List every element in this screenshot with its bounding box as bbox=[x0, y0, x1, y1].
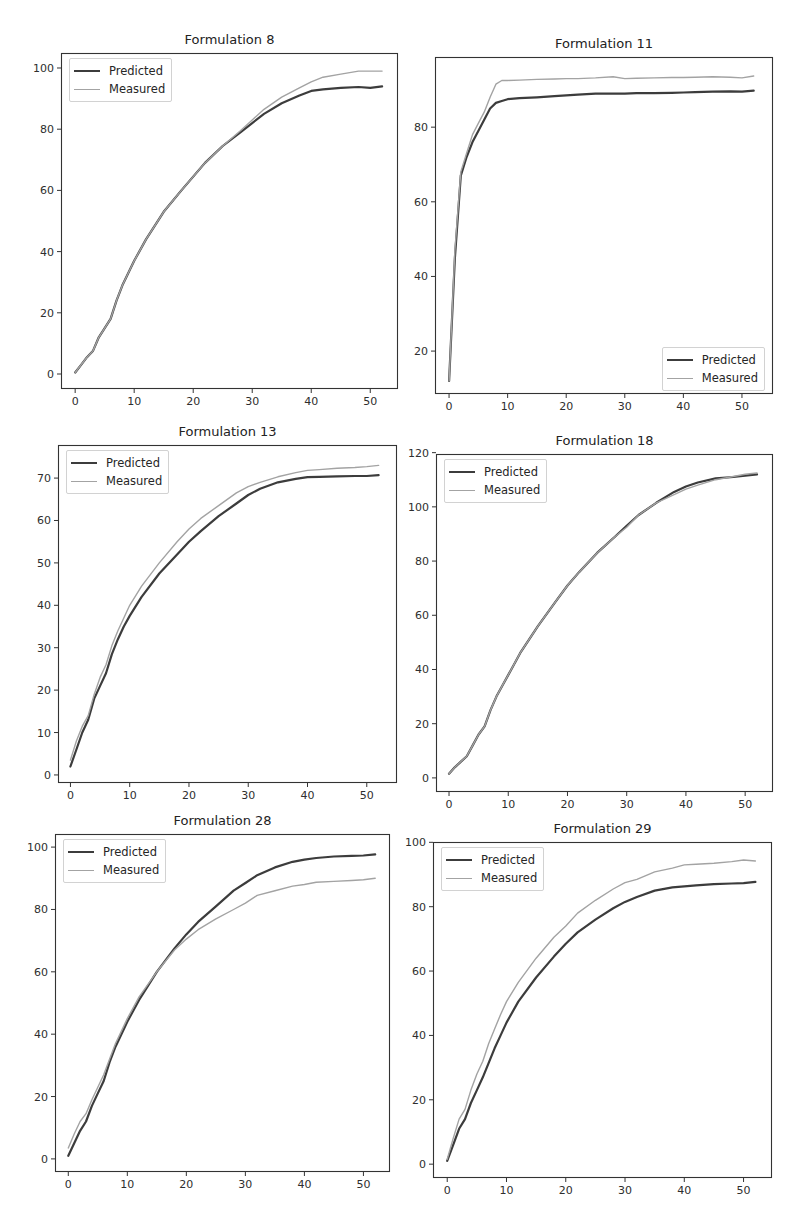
y-tick-label: 80 bbox=[415, 555, 429, 568]
y-tick-label: 80 bbox=[40, 123, 54, 136]
chart-panel-formulation-29: Formulation 29 01020304050020406080100 P… bbox=[433, 842, 772, 1178]
measured-line-swatch-icon bbox=[446, 878, 472, 879]
y-tick-label: 40 bbox=[37, 599, 51, 612]
x-tick-label: 0 bbox=[446, 798, 453, 811]
predicted-line-swatch-icon bbox=[68, 851, 94, 853]
x-tick-label: 0 bbox=[72, 395, 79, 408]
y-tick-label: 0 bbox=[41, 1153, 48, 1166]
y-tick-label: 100 bbox=[27, 841, 48, 854]
legend-item-measured: Measured bbox=[71, 472, 162, 490]
y-tick-label: 120 bbox=[408, 447, 429, 460]
y-tick-label: 0 bbox=[44, 769, 51, 782]
y-tick-label: 10 bbox=[37, 727, 51, 740]
x-tick-label: 20 bbox=[559, 1184, 573, 1197]
x-tick-label: 30 bbox=[245, 395, 259, 408]
chart-panel-formulation-8: Formulation 8 01020304050020406080100 Pr… bbox=[61, 53, 398, 389]
axes-frame bbox=[59, 446, 397, 783]
series-line-measured bbox=[449, 76, 754, 381]
predicted-line-swatch-icon bbox=[74, 70, 100, 72]
series-line-measured bbox=[449, 473, 757, 774]
x-tick-label: 40 bbox=[677, 1184, 691, 1197]
legend: Predicted Measured bbox=[441, 847, 544, 891]
x-tick-label: 40 bbox=[676, 400, 690, 413]
predicted-line-swatch-icon bbox=[446, 859, 472, 861]
x-tick-label: 20 bbox=[560, 798, 574, 811]
x-tick-label: 10 bbox=[127, 395, 141, 408]
x-tick-label: 0 bbox=[67, 789, 74, 802]
legend-item-predicted: Predicted bbox=[68, 843, 159, 861]
legend-label: Predicted bbox=[484, 463, 538, 481]
legend-label: Predicted bbox=[106, 454, 160, 472]
chart-title: Formulation 18 bbox=[436, 433, 773, 448]
x-tick-label: 50 bbox=[363, 395, 377, 408]
axes-frame bbox=[62, 54, 398, 389]
x-tick-label: 20 bbox=[559, 400, 573, 413]
x-tick-label: 50 bbox=[735, 400, 749, 413]
y-tick-label: 40 bbox=[414, 270, 428, 283]
series-line-predicted bbox=[75, 86, 382, 372]
y-tick-label: 60 bbox=[37, 514, 51, 527]
legend-item-measured: Measured bbox=[667, 369, 758, 387]
predicted-line-swatch-icon bbox=[71, 462, 97, 464]
legend: Predicted Measured bbox=[63, 839, 166, 883]
y-tick-label: 100 bbox=[405, 836, 426, 849]
y-tick-label: 0 bbox=[422, 772, 429, 785]
legend: Predicted Measured bbox=[662, 347, 765, 391]
y-tick-label: 60 bbox=[412, 965, 426, 978]
y-tick-label: 20 bbox=[34, 1091, 48, 1104]
measured-line-swatch-icon bbox=[74, 89, 100, 90]
y-tick-label: 20 bbox=[415, 718, 429, 731]
chart-title: Formulation 29 bbox=[433, 821, 772, 836]
legend: Predicted Measured bbox=[444, 459, 547, 503]
y-tick-label: 0 bbox=[47, 368, 54, 381]
predicted-line-swatch-icon bbox=[449, 471, 475, 473]
measured-line-swatch-icon bbox=[667, 378, 693, 379]
legend-item-measured: Measured bbox=[446, 869, 537, 887]
plot-area: 01020304050020406080100 bbox=[61, 53, 398, 389]
y-tick-label: 20 bbox=[40, 307, 54, 320]
x-tick-label: 40 bbox=[301, 789, 315, 802]
y-tick-label: 60 bbox=[34, 966, 48, 979]
legend-item-measured: Measured bbox=[449, 481, 540, 499]
plot-area: 01020304050020406080100 bbox=[55, 834, 390, 1172]
y-tick-label: 50 bbox=[37, 557, 51, 570]
x-tick-label: 30 bbox=[618, 400, 632, 413]
y-tick-label: 20 bbox=[412, 1094, 426, 1107]
legend-label: Measured bbox=[109, 80, 165, 98]
legend-label: Measured bbox=[481, 869, 537, 887]
y-tick-label: 30 bbox=[37, 642, 51, 655]
y-tick-label: 20 bbox=[37, 684, 51, 697]
figure-grid: Formulation 8 01020304050020406080100 Pr… bbox=[0, 0, 798, 1223]
series-line-predicted bbox=[70, 475, 378, 766]
x-tick-label: 20 bbox=[179, 1178, 193, 1191]
legend-label: Predicted bbox=[702, 351, 756, 369]
y-tick-label: 100 bbox=[408, 501, 429, 514]
x-tick-label: 50 bbox=[737, 1184, 751, 1197]
x-tick-label: 30 bbox=[618, 1184, 632, 1197]
x-tick-label: 40 bbox=[297, 1178, 311, 1191]
y-tick-label: 40 bbox=[415, 663, 429, 676]
legend: Predicted Measured bbox=[66, 450, 169, 494]
x-tick-label: 10 bbox=[123, 789, 137, 802]
y-tick-label: 0 bbox=[419, 1158, 426, 1171]
series-line-predicted bbox=[449, 474, 757, 774]
x-tick-label: 40 bbox=[304, 395, 318, 408]
legend-item-predicted: Predicted bbox=[446, 851, 537, 869]
y-tick-label: 60 bbox=[414, 196, 428, 209]
x-tick-label: 50 bbox=[738, 798, 752, 811]
y-tick-label: 60 bbox=[415, 609, 429, 622]
legend-label: Predicted bbox=[103, 843, 157, 861]
x-tick-label: 10 bbox=[499, 1184, 513, 1197]
legend-label: Measured bbox=[103, 861, 159, 879]
plot-area: 01020304050010203040506070 bbox=[58, 445, 397, 783]
chart-panel-formulation-11: Formulation 11 0102030405020406080 Predi… bbox=[435, 57, 773, 394]
y-tick-label: 40 bbox=[412, 1029, 426, 1042]
legend-item-predicted: Predicted bbox=[74, 62, 165, 80]
legend-item-predicted: Predicted bbox=[71, 454, 162, 472]
series-line-measured bbox=[68, 878, 375, 1148]
y-tick-label: 70 bbox=[37, 472, 51, 485]
y-tick-label: 80 bbox=[34, 903, 48, 916]
chart-panel-formulation-28: Formulation 28 01020304050020406080100 P… bbox=[55, 834, 390, 1172]
legend: Predicted Measured bbox=[69, 58, 172, 102]
x-tick-label: 10 bbox=[501, 400, 515, 413]
